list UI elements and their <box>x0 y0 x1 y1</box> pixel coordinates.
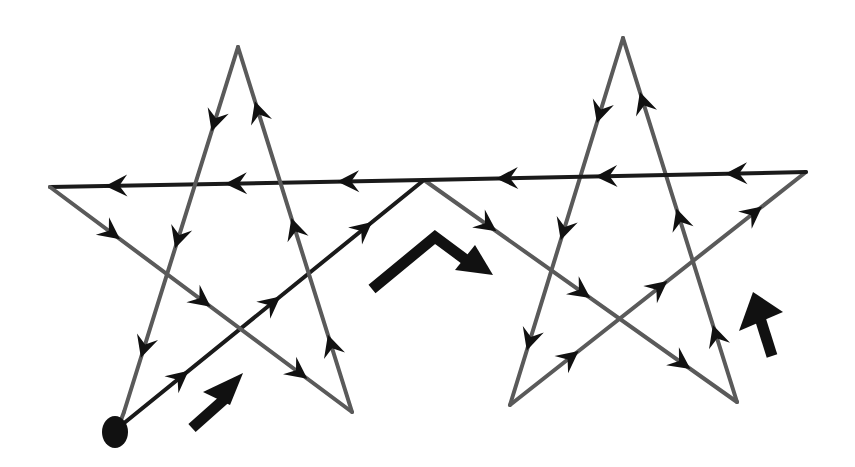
direction-arrow-up-right <box>192 373 243 428</box>
star-path-diagram <box>0 0 855 467</box>
path-edges <box>50 38 806 428</box>
path-edge <box>424 172 806 180</box>
direction-arrow-up <box>739 292 783 356</box>
direction-arrow-chevron <box>372 237 493 289</box>
start-dot <box>102 416 128 448</box>
